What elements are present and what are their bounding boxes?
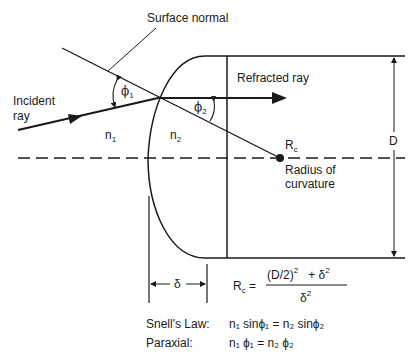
rc-formula-lhs: Rc = bbox=[233, 279, 256, 295]
numerator-exponent: 2 bbox=[294, 266, 298, 275]
n2-subscript: 2 bbox=[177, 135, 181, 144]
snells-law-expression: n₁ sinϕ₁ = n₂ sinϕ₂ bbox=[229, 317, 324, 331]
radius-label-line2: curvature bbox=[285, 177, 335, 191]
lens-curved-surface bbox=[148, 56, 205, 258]
phi1-symbol: ϕ bbox=[121, 84, 129, 98]
denominator-delta: δ bbox=[300, 291, 307, 305]
numerator-delta-exponent: 2 bbox=[325, 266, 329, 275]
refraction-diagram bbox=[0, 0, 417, 363]
rc-label: Rc bbox=[285, 138, 298, 157]
incident-ray-label-line2: ray bbox=[13, 109, 30, 123]
refracted-ray-label: Refracted ray bbox=[237, 71, 309, 85]
n2-label: n2 bbox=[170, 128, 181, 147]
denominator-exponent: 2 bbox=[307, 289, 311, 298]
rc-formula-denominator: δ2 bbox=[300, 289, 311, 305]
phi1-subscript: 1 bbox=[129, 91, 133, 100]
surface-normal-leader bbox=[108, 28, 156, 71]
n1-symbol: n bbox=[105, 128, 112, 142]
rc-subscript: c bbox=[294, 145, 298, 154]
phi2-subscript: 2 bbox=[202, 107, 206, 116]
n1-subscript: 1 bbox=[112, 135, 116, 144]
rc-formula-r: R bbox=[233, 279, 242, 293]
refracted-ray-arrow-icon bbox=[272, 92, 287, 104]
incident-ray-label-line1: Incident bbox=[13, 94, 55, 108]
n2-symbol: n bbox=[170, 128, 177, 142]
rc-formula-subscript: c bbox=[242, 286, 246, 295]
rc-point bbox=[276, 154, 284, 162]
phi2-symbol: ϕ bbox=[194, 100, 202, 114]
surface-normal-label: Surface normal bbox=[147, 11, 228, 25]
rc-formula-numerator: (D/2)2 + δ2 bbox=[267, 266, 330, 282]
d-label: D bbox=[389, 134, 398, 148]
phi1-angle-arc bbox=[113, 80, 117, 107]
n1-label: n1 bbox=[105, 128, 116, 147]
phi1-label: ϕ1 bbox=[121, 84, 134, 103]
rc-formula-equals: = bbox=[249, 279, 256, 293]
phi2-angle-arc bbox=[210, 101, 215, 121]
numerator-base: (D/2) bbox=[267, 268, 294, 282]
phi2-label: ϕ2 bbox=[194, 100, 207, 119]
snells-law-label: Snell's Law: bbox=[146, 317, 210, 331]
radius-label-line1: Radius of bbox=[285, 163, 336, 177]
delta-label: δ bbox=[174, 277, 181, 291]
paraxial-expression: n₁ ϕ₁ = n₂ ϕ₂ bbox=[229, 336, 294, 350]
numerator-plus-delta: + δ bbox=[308, 268, 325, 282]
paraxial-label: Paraxial: bbox=[146, 336, 193, 350]
rc-symbol: R bbox=[285, 138, 294, 152]
